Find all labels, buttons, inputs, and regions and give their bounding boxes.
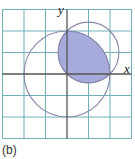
shaded-intersection-region bbox=[58, 31, 110, 83]
y-axis-label: y bbox=[56, 2, 64, 17]
x-axis-label: x bbox=[123, 61, 130, 76]
figure-caption: (b) bbox=[2, 143, 17, 157]
coordinate-diagram: x y bbox=[0, 0, 135, 159]
